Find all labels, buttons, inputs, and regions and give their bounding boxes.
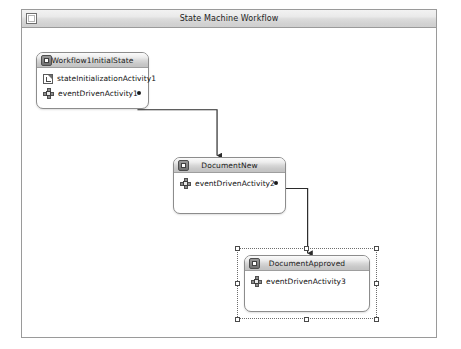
workflow-canvas[interactable]: Workflow1InitialState stateInitializatio… — [22, 28, 436, 337]
state-header-workflow1initialstate[interactable]: Workflow1InitialState — [37, 53, 148, 68]
state-box-documentnew[interactable]: DocumentNew eventDrivenActivity2 — [173, 157, 286, 214]
connector-anchor-eventdrivenactivity2[interactable] — [274, 181, 278, 185]
state-title: Workflow1InitialState — [52, 56, 134, 65]
activity-label: eventDrivenActivity1 — [58, 89, 138, 98]
state-box-workflow1initialstate[interactable]: Workflow1InitialState stateInitializatio… — [36, 52, 149, 109]
state-machine-designer-window: State Machine Workflow Workflow1InitialS… — [21, 9, 437, 338]
activity-row-stateinitializationactivity1[interactable]: stateInitializationActivity1 — [37, 71, 148, 86]
event-driven-icon-center — [254, 279, 259, 284]
event-driven-icon — [251, 276, 262, 287]
resize-handle-bottom-left[interactable] — [235, 317, 240, 322]
state-icon — [178, 160, 189, 171]
state-initialization-icon — [43, 74, 53, 84]
state-icon — [41, 55, 52, 66]
state-header-documentnew[interactable]: DocumentNew — [174, 158, 285, 173]
activity-row-eventdrivenactivity3[interactable]: eventDrivenActivity3 — [245, 274, 369, 289]
event-driven-icon-center — [46, 91, 51, 96]
state-title: DocumentNew — [201, 161, 257, 170]
state-box-documentapproved[interactable]: DocumentApproved eventDrivenActivity3 — [244, 255, 370, 312]
state-header-documentapproved[interactable]: DocumentApproved — [245, 256, 369, 271]
connector-anchor-eventdrivenactivity1[interactable] — [137, 91, 141, 95]
activity-label: eventDrivenActivity3 — [266, 277, 346, 286]
state-body-documentnew: eventDrivenActivity2 — [174, 173, 285, 191]
window-restore-icon[interactable] — [26, 13, 37, 24]
event-driven-icon-center — [183, 181, 188, 186]
activity-row-eventdrivenactivity2[interactable]: eventDrivenActivity2 — [174, 176, 285, 191]
activity-label: eventDrivenActivity2 — [195, 179, 275, 188]
resize-handle-middle-left[interactable] — [235, 281, 240, 286]
state-icon — [249, 258, 260, 269]
resize-handle-middle-right[interactable] — [374, 281, 379, 286]
state-body-workflow1initialstate: stateInitializationActivity1 eventDriven… — [37, 68, 148, 101]
activity-label: stateInitializationActivity1 — [57, 74, 156, 83]
window-restore-icon-inner — [28, 15, 35, 22]
window-title: State Machine Workflow — [180, 14, 279, 23]
event-driven-icon — [180, 178, 191, 189]
resize-handle-top-center[interactable] — [304, 246, 309, 251]
resize-handle-bottom-center[interactable] — [304, 317, 309, 322]
state-body-documentapproved: eventDrivenActivity3 — [245, 271, 369, 289]
resize-handle-top-right[interactable] — [374, 246, 379, 251]
activity-row-eventdrivenactivity1[interactable]: eventDrivenActivity1 — [37, 86, 148, 101]
resize-handle-bottom-right[interactable] — [374, 317, 379, 322]
event-driven-icon — [43, 88, 54, 99]
state-title: DocumentApproved — [269, 259, 345, 268]
connector-initial-to-new — [137, 110, 217, 156]
window-title-bar: State Machine Workflow — [22, 10, 436, 28]
resize-handle-top-left[interactable] — [235, 246, 240, 251]
